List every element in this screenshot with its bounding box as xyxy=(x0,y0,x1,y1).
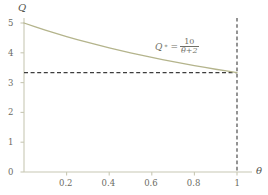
plot-area xyxy=(0,0,268,195)
demand-curve xyxy=(24,23,237,73)
formula-denominator: θ+2 xyxy=(180,47,199,55)
x-axis-label: θ xyxy=(256,165,262,176)
y-tick-label-4: 4 xyxy=(8,48,13,58)
formula-star: * xyxy=(164,43,167,50)
y-tick-label-0: 0 xyxy=(8,167,13,177)
x-tick-label-0.4: 0.4 xyxy=(102,178,116,188)
formula-numerator: 10 xyxy=(182,38,196,46)
y-tick-label-1: 1 xyxy=(8,137,13,147)
formula-fraction: 10 θ+2 xyxy=(180,38,199,56)
x-tick-label-0.2: 0.2 xyxy=(59,178,73,188)
y-tick-label-2: 2 xyxy=(8,107,13,117)
curve-formula-annotation: Q* = 10 θ+2 xyxy=(155,38,199,56)
formula-equals: = xyxy=(170,42,178,52)
x-tick-label-0.6: 0.6 xyxy=(144,178,158,188)
y-tick-label-3: 3 xyxy=(8,78,13,88)
x-tick-label-0.8: 0.8 xyxy=(187,178,201,188)
x-tick-label-1: 1 xyxy=(235,178,240,188)
chart-figure: Q θ 5 4 3 2 1 0 0.2 0.4 0.6 0.8 1 Q* = 1… xyxy=(0,0,268,195)
y-tick-label-5: 5 xyxy=(8,18,13,28)
y-axis-label: Q xyxy=(18,2,26,13)
formula-lhs: Q xyxy=(155,42,162,52)
